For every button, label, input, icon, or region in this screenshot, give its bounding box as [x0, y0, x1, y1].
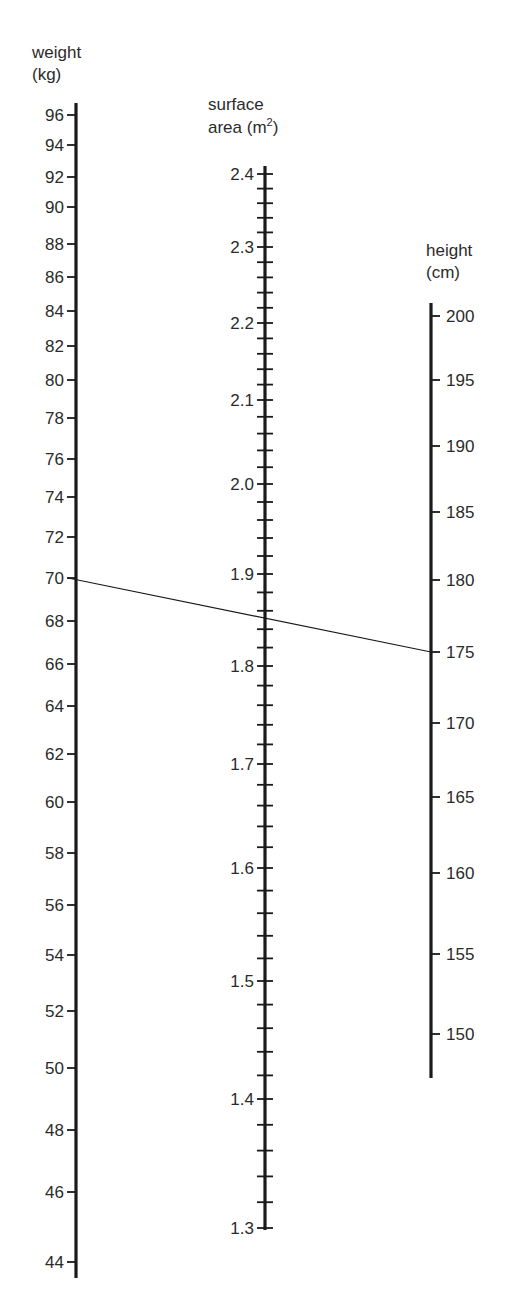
- surface-area-tick-label: 2.0: [230, 475, 254, 494]
- weight-tick-label: 62: [45, 745, 64, 764]
- weight-tick-label: 80: [45, 371, 64, 390]
- height-ticks: 200195190185180175170165160155150: [431, 307, 474, 1044]
- surface-area-ticks: 2.42.32.22.12.01.91.81.71.61.51.41.3: [230, 165, 273, 1238]
- weight-tick-label: 86: [45, 268, 64, 287]
- height-tick-label: 190: [446, 437, 474, 456]
- weight-tick-label: 46: [45, 1183, 64, 1202]
- weight-tick-label: 44: [45, 1253, 64, 1272]
- isopleth-reading-line: [68, 578, 431, 652]
- weight-axis-title-line2: (kg): [32, 65, 61, 84]
- surface-area-tick-label: 1.3: [230, 1219, 254, 1238]
- height-tick-label: 160: [446, 864, 474, 883]
- weight-tick-label: 68: [45, 612, 64, 631]
- weight-tick-label: 52: [45, 1002, 64, 1021]
- nomogram-chart: weight (kg) surface area (m2) height (cm…: [0, 0, 518, 1304]
- weight-tick-label: 82: [45, 337, 64, 356]
- weight-tick-label: 78: [45, 409, 64, 428]
- height-tick-label: 150: [446, 1025, 474, 1044]
- weight-tick-label: 70: [45, 569, 64, 588]
- surface-area-tick-label: 2.4: [230, 165, 254, 184]
- surface-area-axis-title-line1: surface: [208, 95, 264, 114]
- weight-tick-label: 66: [45, 655, 64, 674]
- surface-area-tick-label: 2.3: [230, 238, 254, 257]
- surface-area-tick-label: 1.5: [230, 972, 254, 991]
- weight-tick-label: 60: [45, 793, 64, 812]
- height-tick-label: 155: [446, 945, 474, 964]
- surface-area-axis-title-line2: area (m2): [208, 116, 278, 137]
- weight-tick-label: 74: [45, 488, 64, 507]
- height-tick-label: 170: [446, 714, 474, 733]
- weight-tick-label: 58: [45, 844, 64, 863]
- weight-tick-label: 76: [45, 450, 64, 469]
- weight-tick-label: 94: [45, 136, 64, 155]
- height-axis-title-line1: height: [426, 241, 473, 260]
- weight-tick-label: 90: [45, 198, 64, 217]
- surface-area-tick-label: 1.6: [230, 859, 254, 878]
- weight-tick-label: 50: [45, 1059, 64, 1078]
- height-axis-title-line2: (cm): [426, 263, 460, 282]
- weight-tick-label: 88: [45, 235, 64, 254]
- weight-tick-label: 56: [45, 896, 64, 915]
- surface-area-title-close: ): [273, 118, 279, 137]
- surface-area-title-main: area (m: [208, 118, 267, 137]
- weight-tick-label: 84: [45, 302, 64, 321]
- height-tick-label: 165: [446, 788, 474, 807]
- surface-area-tick-label: 1.4: [230, 1090, 254, 1109]
- height-tick-label: 175: [446, 643, 474, 662]
- weight-tick-label: 96: [45, 106, 64, 125]
- weight-axis-title-line1: weight: [31, 43, 81, 62]
- height-tick-label: 180: [446, 571, 474, 590]
- weight-tick-label: 72: [45, 528, 64, 547]
- height-tick-label: 195: [446, 371, 474, 390]
- surface-area-tick-label: 2.1: [230, 391, 254, 410]
- weight-ticks: 9694929088868482807876747270686664626058…: [45, 106, 76, 1272]
- weight-tick-label: 92: [45, 168, 64, 187]
- weight-tick-label: 64: [45, 697, 64, 716]
- height-tick-label: 200: [446, 307, 474, 326]
- weight-tick-label: 48: [45, 1121, 64, 1140]
- weight-tick-label: 54: [45, 946, 64, 965]
- surface-area-tick-label: 1.7: [230, 755, 254, 774]
- surface-area-tick-label: 1.9: [230, 565, 254, 584]
- surface-area-tick-label: 2.2: [230, 314, 254, 333]
- surface-area-tick-label: 1.8: [230, 657, 254, 676]
- height-tick-label: 185: [446, 503, 474, 522]
